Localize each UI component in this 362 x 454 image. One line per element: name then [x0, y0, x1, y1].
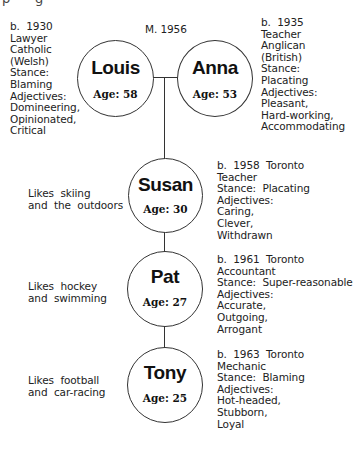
- person-node-pat: Pat Age: 27: [127, 251, 203, 327]
- anna-details: b. 1935 Teacher Anglican (British) Stanc…: [261, 17, 345, 133]
- tony-details: b. 1963 Toronto Mechanic Stance: Blaming…: [217, 349, 305, 430]
- person-age: Age: 27: [128, 296, 202, 308]
- person-name: Susan: [129, 174, 202, 196]
- marriage-label: M. 1956: [145, 24, 187, 36]
- person-node-anna: Anna Age: 53: [177, 40, 253, 117]
- person-node-susan: Susan Age: 30: [128, 158, 203, 233]
- susan-likes: Likes skiing and the outdoors: [28, 188, 123, 211]
- person-age: Age: 25: [128, 392, 202, 404]
- person-name: Tony: [128, 362, 202, 384]
- person-age: Age: 53: [178, 88, 252, 100]
- person-name: Louis: [78, 57, 153, 79]
- pat-details: b. 1961 Toronto Accountant Stance: Super…: [217, 254, 353, 335]
- susan-details: b. 1958 Toronto Teacher Stance: Placatin…: [217, 160, 310, 241]
- marriage-line: [153, 77, 178, 78]
- sibling-line-susan-pat: [164, 232, 165, 252]
- descent-line: [164, 77, 165, 161]
- person-age: Age: 58: [78, 88, 153, 100]
- pat-likes: Likes hockey and swimming: [28, 281, 107, 304]
- louis-details: b. 1930 Lawyer Catholic (Welsh) Stance: …: [10, 21, 80, 137]
- cropped-page-text: p g: [2, 0, 43, 6]
- person-age: Age: 30: [129, 203, 202, 215]
- person-name: Anna: [178, 57, 252, 79]
- tony-likes: Likes football and car-racing: [28, 375, 105, 398]
- person-node-louis: Louis Age: 58: [77, 40, 154, 117]
- person-name: Pat: [128, 266, 202, 288]
- person-node-tony: Tony Age: 25: [127, 347, 203, 423]
